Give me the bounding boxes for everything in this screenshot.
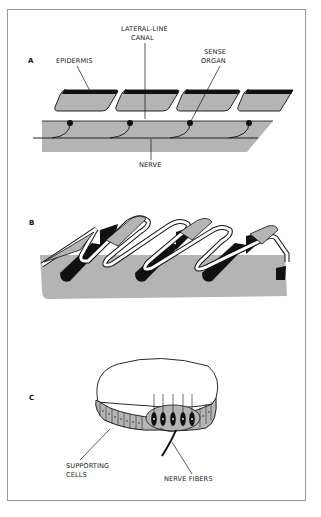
panel-b: B — [29, 216, 287, 299]
sense-organ-label-1: SENSE — [204, 48, 226, 56]
panel-c-label: C — [29, 394, 34, 402]
panel-b-label: B — [29, 219, 34, 227]
panel-a: A EPIDERMIS LATERAL-LINE CANAL SENSE ORG… — [28, 25, 293, 169]
cupula — [97, 358, 218, 407]
lateral-line-canal-label-2: CANAL — [131, 34, 154, 42]
epidermis-scales — [55, 90, 293, 111]
panel-c: C — [29, 358, 218, 483]
nerve-fiber-bundle — [162, 430, 176, 456]
panel-a-label: A — [28, 57, 34, 65]
nerve-fibers-label: NERVE FIBERS — [164, 475, 213, 483]
supporting-cells-label-2: CELLS — [66, 471, 87, 479]
lateral-line-canal-label-1: LATERAL-LINE — [121, 25, 168, 33]
epidermis-label: EPIDERMIS — [56, 57, 93, 65]
nerve-label: NERVE — [139, 161, 162, 169]
supporting-cells-label-1: SUPPORTING — [66, 462, 109, 470]
lateral-line-diagram: A EPIDERMIS LATERAL-LINE CANAL SENSE ORG… — [0, 0, 321, 517]
sense-organ-label-2: ORGAN — [201, 57, 226, 65]
